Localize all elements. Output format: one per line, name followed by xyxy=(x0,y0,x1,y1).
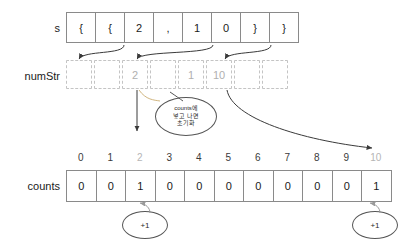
cell-s-5: 0 xyxy=(211,12,241,43)
arrow-s6-to-numstr5 xyxy=(225,45,271,59)
diagram-canvas: s {{2,10}} numStr 2110 counts에 넣고 나면 초기화… xyxy=(0,0,418,244)
increment-left-label: +1 xyxy=(140,221,149,230)
counts-index-0: 0 xyxy=(66,152,96,163)
cell-counts-8: 0 xyxy=(302,170,333,202)
cell-s-1: { xyxy=(95,12,125,43)
counts-index-1: 1 xyxy=(96,152,126,163)
cell-counts-10: 1 xyxy=(361,170,392,202)
counts-index-7: 7 xyxy=(273,152,303,163)
cell-counts-5: 0 xyxy=(214,170,245,202)
cell-numstr-0 xyxy=(66,60,92,89)
row-label-s: s xyxy=(20,22,60,34)
cell-counts-4: 0 xyxy=(184,170,215,202)
counts-index-5: 5 xyxy=(214,152,244,163)
cell-numstr-6 xyxy=(234,60,260,89)
increment-bubble-left: +1 xyxy=(122,211,168,239)
array-row-s: {{2,10}} xyxy=(66,12,298,43)
note-bubble-line3: 초기화 xyxy=(177,120,195,128)
counts-index-8: 8 xyxy=(302,152,332,163)
cell-counts-0: 0 xyxy=(66,170,97,202)
cell-counts-9: 0 xyxy=(332,170,363,202)
cell-s-3: , xyxy=(153,12,183,43)
cell-counts-1: 0 xyxy=(96,170,127,202)
cell-s-6: } xyxy=(240,12,270,43)
array-row-numstr: 2110 xyxy=(66,60,290,89)
counts-index-3: 3 xyxy=(155,152,185,163)
arrow-numstr5-to-counts10 xyxy=(227,90,372,148)
cell-counts-2: 1 xyxy=(125,170,156,202)
counts-index-9: 9 xyxy=(332,152,362,163)
cell-numstr-1 xyxy=(94,60,120,89)
cell-numstr-4: 1 xyxy=(178,60,204,89)
cell-numstr-2: 2 xyxy=(122,60,148,89)
increment-right-label: +1 xyxy=(370,221,379,230)
note-bubble: counts에 넣고 나면 초기화 xyxy=(155,97,217,136)
cell-s-2: 2 xyxy=(124,12,154,43)
note-bubble-line1: counts에 xyxy=(174,105,198,113)
arrow-s1-to-numstr0 xyxy=(79,45,124,59)
cell-s-7: } xyxy=(269,12,299,43)
cell-numstr-5: 10 xyxy=(206,60,232,89)
cell-counts-6: 0 xyxy=(243,170,274,202)
counts-index-6: 6 xyxy=(243,152,273,163)
row-label-numstr: numStr xyxy=(4,70,60,82)
cell-numstr-3 xyxy=(150,60,176,89)
cell-s-4: 1 xyxy=(182,12,212,43)
cell-counts-3: 0 xyxy=(155,170,186,202)
arrow-s3-to-numstr2 xyxy=(137,45,213,59)
counts-index-row: 012345678910 xyxy=(66,152,391,163)
row-label-counts: counts xyxy=(8,180,60,192)
arrow-numstr2-to-note xyxy=(139,90,160,101)
counts-index-4: 4 xyxy=(184,152,214,163)
counts-index-2: 2 xyxy=(125,152,155,163)
increment-bubble-right: +1 xyxy=(352,211,398,239)
counts-index-10: 10 xyxy=(361,152,391,163)
cell-numstr-7 xyxy=(262,60,288,89)
cell-counts-7: 0 xyxy=(273,170,304,202)
cell-s-0: { xyxy=(66,12,96,43)
array-row-counts: 00100000001 xyxy=(66,170,391,202)
